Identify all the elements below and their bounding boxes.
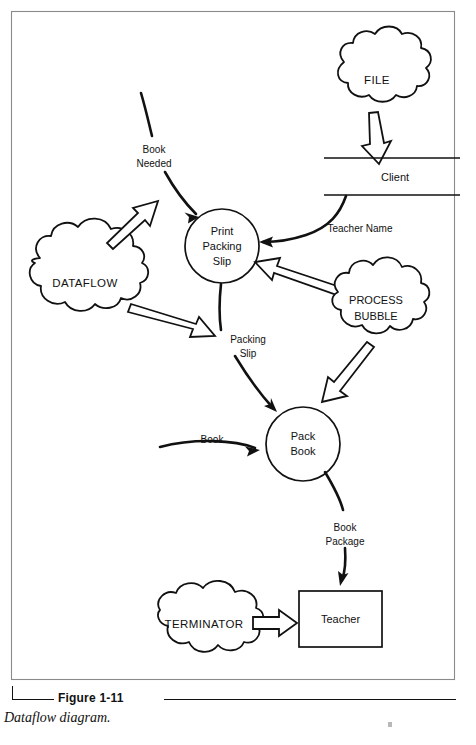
annotation-arrow-dataflow-to-process xyxy=(128,304,215,337)
caption-corner-tick xyxy=(12,686,13,700)
flow-label-teacher-name: Teacher Name xyxy=(327,223,392,234)
hollow-arrow-shape xyxy=(362,112,391,164)
flow-label-book-needed-line2: Needed xyxy=(136,158,171,169)
node-client-datastore: Client xyxy=(324,158,460,195)
annotation-arrow-bubble-to-pack xyxy=(322,342,374,402)
node-label-pack-book-line2: Book xyxy=(290,445,316,457)
flow-packing-slip: Packing Slip xyxy=(220,284,278,412)
hollow-arrow-shape xyxy=(255,258,340,295)
node-teacher: Teacher xyxy=(299,591,382,647)
node-label-file: FILE xyxy=(364,74,390,86)
flow-label-book-needed-line1: Book xyxy=(143,144,167,155)
node-label-terminator: TERMINATOR xyxy=(165,618,244,630)
flow-book-package: Book Package xyxy=(325,472,365,586)
cloud-shape-terminator xyxy=(158,581,263,652)
flow-label-book: Book xyxy=(201,434,225,445)
flow-line-packing-slip-lower xyxy=(235,356,273,408)
node-label-client: Client xyxy=(381,171,409,183)
node-print-packing-slip: Print Packing Slip xyxy=(185,209,259,283)
figure-caption: Figure 1-11 Dataflow diagram. xyxy=(0,686,476,745)
flow-line-packing-slip-upper xyxy=(220,284,222,330)
flow-teacher-name: Teacher Name xyxy=(259,196,393,248)
dataflow-diagram-canvas: FILE Client Teacher Name Book Needed xyxy=(0,0,476,745)
cloud-shape-file xyxy=(338,27,431,102)
flow-book: Book xyxy=(160,434,260,457)
node-label-process-bubble-line2: BUBBLE xyxy=(354,310,397,322)
node-label-dataflow: DATAFLOW xyxy=(52,277,117,289)
node-terminator: TERMINATOR xyxy=(158,581,263,652)
hollow-arrow-shape xyxy=(128,304,215,337)
node-pack-book: Pack Book xyxy=(266,407,340,481)
flow-label-packing-slip-line1: Packing xyxy=(230,334,266,345)
caption-rule-right xyxy=(164,699,456,700)
flow-line-teacher-name xyxy=(263,196,346,242)
flow-label-book-package-line2: Package xyxy=(326,536,365,547)
caption-rule-left xyxy=(12,699,54,700)
node-file: FILE xyxy=(338,27,431,102)
figure-number: Figure 1-11 xyxy=(58,691,124,705)
node-label-pack-book-line1: Pack xyxy=(291,430,316,442)
node-label-print-packing-slip-line1: Print xyxy=(211,225,234,237)
flow-line-book-package-upper xyxy=(325,472,343,510)
flow-line-book-needed-lower xyxy=(165,172,196,214)
annotation-arrow-file-to-client xyxy=(362,112,391,164)
annotation-arrow-bubble-to-print xyxy=(255,258,340,295)
node-process-bubble: PROCESS BUBBLE xyxy=(332,257,429,333)
page-speck xyxy=(388,722,392,727)
figure-page: FILE Client Teacher Name Book Needed xyxy=(0,0,476,745)
figure-title: Dataflow diagram. xyxy=(4,710,111,726)
node-label-process-bubble-line1: PROCESS xyxy=(349,294,403,306)
flow-label-book-package-line1: Book xyxy=(334,522,358,533)
node-label-print-packing-slip-line3: Slip xyxy=(213,255,231,267)
flow-line-book-needed xyxy=(141,93,152,136)
node-label-teacher: Teacher xyxy=(321,613,360,625)
flow-label-packing-slip-line2: Slip xyxy=(240,348,257,359)
page-frame xyxy=(12,12,455,680)
node-label-print-packing-slip-line2: Packing xyxy=(202,240,241,252)
hollow-arrow-shape xyxy=(322,342,374,402)
